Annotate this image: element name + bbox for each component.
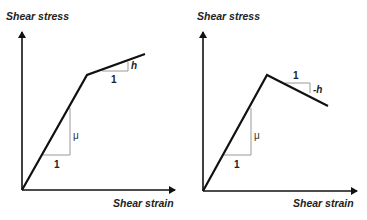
stress-strain-curve xyxy=(203,75,328,191)
softening-rise-label: -h xyxy=(313,84,322,95)
elastic-slope-triangle xyxy=(43,108,70,155)
x-axis-label: Shear strain xyxy=(113,197,174,209)
hardening-rise-label: h xyxy=(131,60,137,71)
y-axis-label: Shear stress xyxy=(6,10,69,22)
elastic-rise-label: μ xyxy=(254,130,260,141)
softening-panel: Shear stress Shear strain 1 μ 1 -h xyxy=(197,10,357,209)
y-axis-label: Shear stress xyxy=(197,10,260,22)
elastic-run-label: 1 xyxy=(54,159,60,170)
hardening-run-label: 1 xyxy=(111,74,117,85)
elastic-rise-label: μ xyxy=(73,130,79,141)
bilinear-stress-strain-diagrams: Shear stress Shear strain 1 μ 1 h Shear … xyxy=(0,0,367,220)
softening-run-label: 1 xyxy=(293,70,299,81)
hardening-slope-triangle xyxy=(102,62,128,71)
elastic-run-label: 1 xyxy=(234,159,240,170)
x-axis-label: Shear strain xyxy=(293,197,354,209)
stress-strain-curve xyxy=(22,54,145,190)
hardening-panel: Shear stress Shear strain 1 μ 1 h xyxy=(6,10,175,209)
